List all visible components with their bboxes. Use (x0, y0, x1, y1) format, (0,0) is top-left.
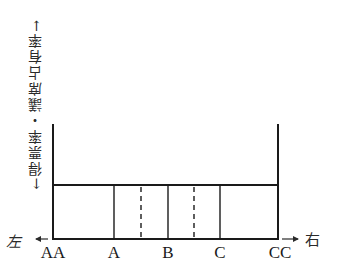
position-label-CC: CC (269, 243, 292, 263)
left-direction-label: 左 (6, 230, 21, 251)
diagram-lines (0, 0, 337, 278)
position-label-C: C (214, 243, 225, 263)
position-label-AA: AA (41, 243, 66, 263)
vertical-axis-label-text: ←得票率・議席占有率→ (27, 18, 45, 189)
vertical-axis-label: ←得票率・議席占有率→ (27, 18, 45, 268)
spatial-model-figure: ←得票率・議席占有率→ 左 右 AA A B C CC (0, 0, 337, 278)
position-label-A: A (108, 243, 120, 263)
position-label-B: B (162, 243, 173, 263)
right-direction-label: 右 (305, 228, 320, 249)
